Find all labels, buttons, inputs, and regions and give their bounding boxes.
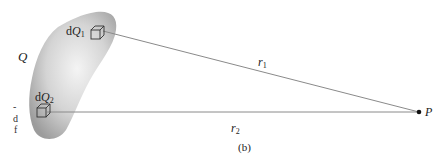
body-label-q: Q [18,50,27,63]
element-label-dq1: dQ1 [66,25,85,39]
distance-label-r1: r1 [258,56,267,70]
edge-text-fragment: d [13,114,18,124]
edge-text-fragment: f [14,125,17,135]
figure-caption: (b) [238,142,251,153]
distance-label-r2: r2 [231,122,240,136]
distance-line-r1 [103,31,419,112]
element-label-dq2: dQ2 [35,91,54,105]
point-label-p: P [425,106,432,118]
field-point-dot [417,110,422,115]
edge-text-fragment: - [13,102,16,112]
